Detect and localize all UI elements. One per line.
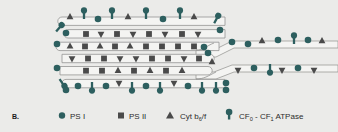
legend-label-cyt-bf: Cyt b6/f [180,112,207,122]
panel-letter: B. [12,113,19,120]
square-marker-icon [118,113,124,119]
circle-marker-icon [59,112,65,118]
legend-label-ps-ii: PS II [129,112,146,121]
legend-label-ps-i: PS I [70,112,85,121]
thylakoid-diagram-figure: B. PS I PS II Cyt b6/f [0,0,338,132]
diagram-canvas: B. PS I PS II Cyt b6/f [0,0,338,132]
